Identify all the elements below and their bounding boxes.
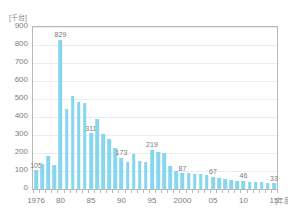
x-axis-tick-mark (82, 190, 83, 193)
x-axis-tick-mark (259, 190, 260, 193)
x-axis-tick-mark (45, 190, 46, 193)
y-axis-tick-label: 900 (0, 22, 28, 30)
bar (138, 161, 142, 189)
bar (254, 182, 258, 189)
y-axis-tick-label: 600 (0, 76, 28, 84)
bar (205, 175, 209, 189)
bar (168, 166, 172, 189)
bar (260, 182, 264, 189)
y-axis-tick-label: 400 (0, 112, 28, 120)
x-axis-tick-mark (265, 190, 266, 193)
bar (193, 174, 197, 189)
x-axis-tick-mark (234, 190, 235, 193)
x-axis-tick-mark (33, 190, 34, 193)
x-axis-tick-mark (173, 190, 174, 193)
x-axis-tick-mark (88, 190, 89, 193)
y-axis-tick-label: 100 (0, 166, 28, 174)
bar (132, 154, 136, 189)
x-axis-tick-label: 95 (147, 196, 156, 205)
x-axis-tick-mark (186, 190, 187, 193)
bar (181, 173, 185, 189)
x-axis-tick-mark (94, 190, 95, 193)
bar (248, 182, 252, 189)
bar (272, 183, 276, 189)
x-axis-tick-mark (57, 190, 58, 193)
x-axis-tick-mark (277, 190, 278, 193)
x-axis-tick-mark (192, 190, 193, 193)
x-axis-tick-mark (161, 190, 162, 193)
x-axis-tick-mark (118, 190, 119, 193)
x-axis-unit-label: [年度] (275, 196, 288, 205)
bar (65, 109, 69, 189)
x-axis-tick-mark (253, 190, 254, 193)
x-axis-tick-mark (131, 190, 132, 193)
bar (120, 158, 124, 189)
x-axis-tick-mark (198, 190, 199, 193)
bar (223, 179, 227, 189)
x-axis-tick-mark (137, 190, 138, 193)
x-axis-tick-mark (247, 190, 248, 193)
x-axis-tick-marks (33, 190, 277, 194)
x-axis-tick-mark (143, 190, 144, 193)
x-axis-tick-mark (216, 190, 217, 193)
y-axis-tick-label: 700 (0, 58, 28, 66)
x-axis-tick-mark (100, 190, 101, 193)
y-axis-tick-label: 200 (0, 148, 28, 156)
x-axis-tick-label: 10 (239, 196, 248, 205)
bar (175, 171, 179, 189)
bar (162, 153, 166, 189)
x-axis-tick-mark (167, 190, 168, 193)
bar (217, 178, 221, 189)
bar (266, 183, 270, 189)
bar (53, 165, 57, 189)
y-axis-tick-label: 800 (0, 40, 28, 48)
bar (156, 152, 160, 189)
bar-slot: 33 (271, 27, 277, 189)
x-axis-tick-mark (64, 190, 65, 193)
x-axis-tick-mark (210, 190, 211, 193)
x-axis-tick-label: 05 (208, 196, 217, 205)
bar (101, 134, 105, 189)
x-axis-tick-mark (106, 190, 107, 193)
x-axis-tick-mark (125, 190, 126, 193)
bar (199, 174, 203, 189)
bar (40, 164, 44, 189)
bar (95, 119, 99, 189)
bar (242, 181, 246, 189)
x-axis-tick-mark (204, 190, 205, 193)
bar (187, 173, 191, 189)
bar-chart: [千台] 9008007006005004003002001000 105829… (0, 0, 288, 220)
bar (46, 156, 50, 189)
x-axis-tick-label: 1976 (27, 196, 45, 205)
bar (144, 162, 148, 189)
bar (34, 170, 38, 189)
bars-container: 10582931117321987674633 (33, 27, 277, 189)
x-axis-tick-label: 90 (117, 196, 126, 205)
x-axis-tick-mark (51, 190, 52, 193)
bar (126, 162, 130, 189)
x-axis-tick-mark (149, 190, 150, 193)
bar (150, 150, 154, 189)
bar (83, 103, 87, 189)
bar-value-label: 33 (270, 175, 278, 182)
bar (89, 133, 93, 189)
y-axis-tick-label: 0 (0, 184, 28, 192)
bar (71, 96, 75, 189)
x-axis-tick-mark (179, 190, 180, 193)
bar (77, 102, 81, 189)
x-axis-tick-label: 2000 (174, 196, 192, 205)
y-axis-tick-label: 300 (0, 130, 28, 138)
x-axis-tick-labels: 1976808590952000051015[年度] (0, 196, 288, 210)
x-axis-tick-mark (70, 190, 71, 193)
x-axis-tick-mark (39, 190, 40, 193)
x-axis-tick-mark (76, 190, 77, 193)
x-axis-tick-mark (222, 190, 223, 193)
bar (59, 40, 63, 189)
x-axis-tick-mark (228, 190, 229, 193)
x-axis-tick-mark (112, 190, 113, 193)
x-axis-tick-mark (155, 190, 156, 193)
bar (107, 139, 111, 189)
x-axis-tick-mark (240, 190, 241, 193)
x-axis-tick-mark (271, 190, 272, 193)
bar (236, 181, 240, 189)
